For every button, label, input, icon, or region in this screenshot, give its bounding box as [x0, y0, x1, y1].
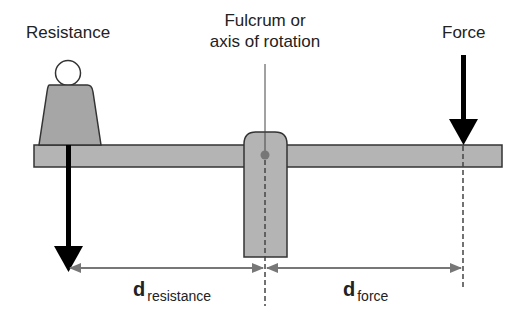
resistance-label: Resistance	[26, 22, 110, 43]
force-label: Force	[442, 22, 485, 43]
d-force-subscript: force	[357, 288, 388, 304]
pivot-point	[261, 151, 270, 160]
force-arrow	[449, 55, 478, 145]
d-resistance-symbol: d	[133, 278, 145, 300]
d-force-symbol: d	[343, 278, 355, 300]
fulcrum-label: Fulcrum or axis of rotation	[205, 10, 325, 52]
d-resistance-subscript: resistance	[147, 288, 211, 304]
weight-ring	[56, 61, 81, 86]
d-resistance-label: dresistance	[133, 278, 211, 301]
fulcrum-label-line2: axis of rotation	[205, 31, 325, 52]
resistance-weight	[39, 61, 101, 146]
fulcrum-label-line1: Fulcrum or	[205, 10, 325, 31]
d-force-label: dforce	[343, 278, 388, 301]
